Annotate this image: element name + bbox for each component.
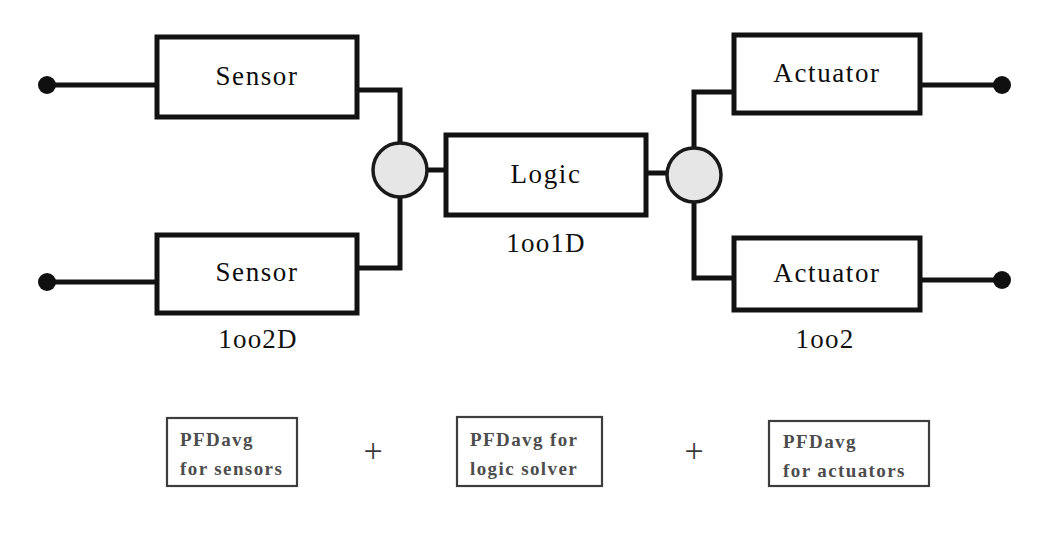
block-sensor-bottom-label: Sensor [215,257,298,287]
input-terminal-top-dot [38,76,56,94]
vote-label-sensors: 1oo2D [218,324,298,354]
vote-label-actuators: 1oo2 [796,324,855,354]
input-terminal-bottom-dot [38,273,56,291]
block-actuator-bottom-label: Actuator [773,258,880,288]
pfd-term-sensors-line2: for sensors [180,458,283,479]
formula-plus-2: + [684,432,703,469]
output-terminal-top-dot [993,76,1011,94]
wire-sensor-top-to-junction [356,90,400,142]
formula-plus-1: + [363,432,382,469]
vote-label-logic: 1oo1D [506,228,586,258]
block-logic-label: Logic [511,159,582,189]
actuator-voting-junction [667,148,721,202]
sif-block-diagram: Sensor Sensor Logic Actuator Actuator 1o… [0,0,1045,540]
wire-sensor-bottom-to-junction [356,198,400,268]
output-terminal-bottom-dot [993,271,1011,289]
wire-junction-to-actuator-top [694,92,734,147]
block-actuator-top-label: Actuator [773,58,880,88]
sensor-voting-junction [373,143,427,197]
pfd-term-logic-line1: PFDavg for [470,429,578,450]
pfd-term-logic-line2: logic solver [470,458,578,479]
pfd-term-actuators-line2: for actuators [783,460,906,481]
block-sensor-top-label: Sensor [215,61,298,91]
pfd-term-sensors-line1: PFDavg [180,429,254,450]
diagram-canvas: Sensor Sensor Logic Actuator Actuator 1o… [0,0,1045,540]
wire-junction-to-actuator-bottom [694,203,734,278]
pfd-term-actuators-line1: PFDavg [783,431,857,452]
